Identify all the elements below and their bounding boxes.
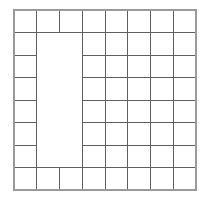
grid-diagram [0,0,209,218]
grid-figure-container [0,0,209,218]
undivided-block [37,33,83,168]
